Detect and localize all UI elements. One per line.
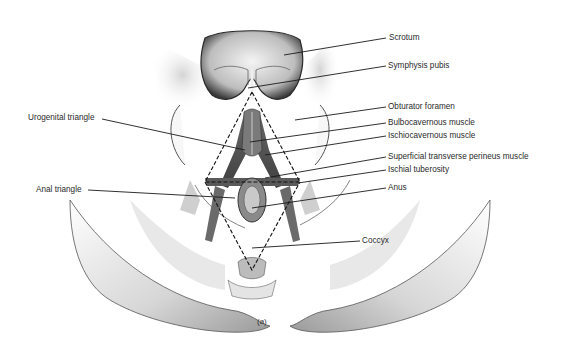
label-ischiocavernous-muscle: Ischiocavernous muscle xyxy=(388,131,475,141)
label-anal-triangle: Anal triangle xyxy=(36,185,82,195)
label-urogenital-triangle: Urogenital triangle xyxy=(28,113,94,123)
perineum-diagram: Scrotum Symphysis pubis Obturator forame… xyxy=(0,0,562,344)
label-coccyx: Coccyx xyxy=(362,236,389,246)
figure-caption: (a) xyxy=(257,317,267,326)
label-scrotum: Scrotum xyxy=(389,33,419,43)
label-symphysis-pubis: Symphysis pubis xyxy=(388,61,449,71)
label-obturator-foramen: Obturator foramen xyxy=(388,102,455,112)
label-superficial-transverse-perineus-muscle: Superficial transverse perineus muscle xyxy=(388,152,529,162)
label-anus: Anus xyxy=(388,183,407,193)
label-bulbocavernous-muscle: Bulbocavernous muscle xyxy=(388,118,475,128)
label-ischial-tuberosity: Ischial tuberosity xyxy=(388,165,449,175)
anatomy-illustration xyxy=(0,0,562,344)
